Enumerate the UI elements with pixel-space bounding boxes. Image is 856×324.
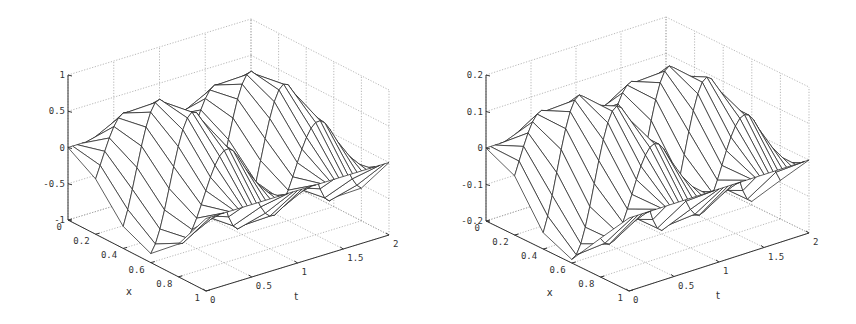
t-tick-label: 1.5 [347,253,363,263]
surface-plot-left: -1-0.500.5100.20.40.60.8100.511.52xt [0,0,428,324]
x-tick-label: 0.4 [101,250,117,260]
x-tick-label: 1 [618,293,623,303]
t-tick-label: 0.5 [678,281,694,291]
x-tick-label: 0 [57,222,62,232]
t-tick-label: 2 [813,237,818,247]
x-axis-label: x [126,286,132,297]
t-tick-label: 0 [210,295,215,305]
surface-plot-left-svg: -1-0.500.5100.20.40.60.8100.511.52xt [0,0,428,324]
x-tick-label: 0.6 [550,265,566,275]
t-tick-label: 1 [723,266,728,276]
surface-mesh [486,66,809,259]
t-tick-label: 2 [393,239,398,249]
x-tick-label: 0.2 [492,237,508,247]
x-tick-label: 0.6 [129,265,145,275]
t-axis-label: t [294,291,298,302]
t-tick-label: 1.5 [768,252,784,262]
t-tick-label: 0 [633,295,638,305]
z-tick-label: 0 [60,143,65,153]
t-tick-label: 0.5 [256,281,272,291]
x-tick-label: 1 [195,293,200,303]
z-tick-label: 1 [60,70,65,80]
t-tick-label: 1 [302,267,307,277]
t-axis-label: t [716,290,720,301]
z-tick-label: -0.5 [43,179,65,189]
x-tick-label: 0.4 [521,251,537,261]
x-tick-label: 0 [475,223,480,233]
z-tick-label: 0.5 [49,106,65,116]
surface-mesh [68,71,389,253]
surface-plot-right-svg: -0.2-0.100.10.200.20.40.60.8100.511.52xt [428,0,856,324]
x-tick-label: 0.8 [578,279,594,289]
x-axis-label: x [547,287,553,298]
x-tick-label: 0.8 [156,279,172,289]
surface-plot-right: -0.2-0.100.10.200.20.40.60.8100.511.52xt [428,0,856,324]
x-tick-label: 0.2 [73,236,89,246]
z-tick-label: 0.1 [467,107,483,117]
z-tick-label: 0 [478,143,483,153]
z-tick-label: 0.2 [467,70,483,80]
z-tick-label: -0.1 [461,180,483,190]
